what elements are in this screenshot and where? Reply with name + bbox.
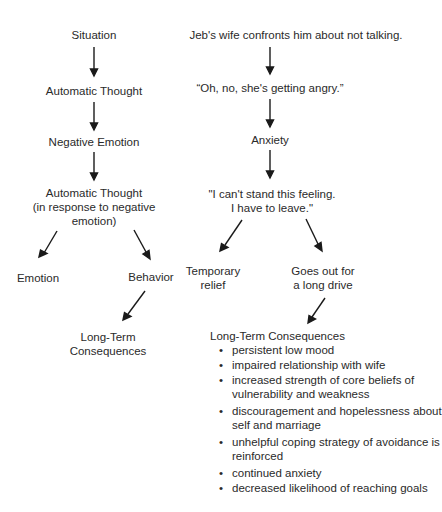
long-term-line1: Long-Term	[70, 330, 147, 344]
consequence-item: increased strength of core beliefs ofvul…	[219, 374, 442, 401]
behavior-line2: a long drive	[291, 278, 354, 292]
label-automatic-thought: Automatic Thought	[46, 84, 142, 98]
consequence-line: reinforced	[232, 450, 442, 464]
long-term-line2: Consequences	[70, 344, 147, 358]
jeb-temporary-relief: Temporary relief	[186, 264, 240, 292]
jeb-behavior: Goes out for a long drive	[291, 264, 354, 292]
consequence-line: discouragement and hopelessness about	[232, 405, 442, 419]
jeb-thought-line1: "I can't stand this feeling.	[208, 187, 335, 201]
jeb-consequences-list: persistent low moodimpaired relationship…	[219, 344, 442, 497]
jeb-thought-line2: I have to leave."	[208, 201, 335, 215]
behavior-line1: Goes out for	[291, 264, 354, 278]
consequence-line: vulnerability and weakness	[232, 388, 442, 402]
jeb-automatic-thought: “Oh, no, she's getting angry.”	[196, 81, 343, 95]
jeb-automatic-thought-response: "I can't stand this feeling. I have to l…	[208, 187, 335, 215]
label-situation: Situation	[72, 28, 117, 42]
automatic-thought-response-line2: (in response to negative	[33, 200, 156, 214]
consequence-item: decreased likelihood of reaching goals	[219, 482, 442, 496]
jeb-emotion-anxiety: Anxiety	[251, 133, 289, 147]
consequence-item: discouragement and hopelessness aboutsel…	[219, 405, 442, 432]
jeb-long-term-title: Long-Term Consequences	[210, 329, 345, 343]
label-automatic-thought-response: Automatic Thought (in response to negati…	[33, 186, 156, 228]
consequence-line: unhelpful coping strategy of avoidance i…	[232, 436, 442, 450]
consequence-item: continued anxiety	[219, 467, 442, 481]
consequence-line: self and marriage	[232, 419, 442, 433]
consequence-item: unhelpful coping strategy of avoidance i…	[219, 436, 442, 463]
label-long-term-consequences: Long-Term Consequences	[70, 330, 147, 358]
automatic-thought-response-line1: Automatic Thought	[33, 186, 156, 200]
consequence-line: decreased likelihood of reaching goals	[232, 482, 442, 496]
label-negative-emotion: Negative Emotion	[49, 135, 140, 149]
temporary-relief-line2: relief	[186, 278, 240, 292]
label-emotion: Emotion	[17, 271, 59, 285]
label-behavior: Behavior	[128, 270, 173, 284]
temporary-relief-line1: Temporary	[186, 264, 240, 278]
jeb-situation: Jeb's wife confronts him about not talki…	[189, 28, 402, 42]
consequence-item: impaired relationship with wife	[219, 359, 442, 373]
consequence-item: persistent low mood	[219, 344, 442, 358]
automatic-thought-response-line3: emotion)	[33, 214, 156, 228]
consequence-line: persistent low mood	[232, 344, 442, 358]
consequence-line: increased strength of core beliefs of	[232, 374, 442, 388]
consequence-line: continued anxiety	[232, 467, 442, 481]
consequence-line: impaired relationship with wife	[232, 359, 442, 373]
